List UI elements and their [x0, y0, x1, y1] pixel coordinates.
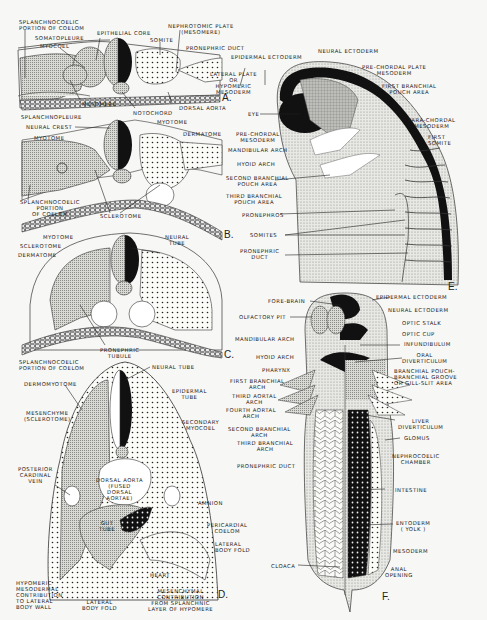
label-f-oral-diverticulum: ORAL DIVERTICULUM: [402, 352, 447, 364]
label-f-fourth-aortal-arch: FOURTH AORTAL ARCH: [226, 407, 276, 419]
label-f-epidermal-ectoderm: EPIDERMAL ECTODERM: [376, 294, 447, 300]
label-f-glomus: GLOMUS: [404, 435, 430, 441]
label-f-entoderm: ENTODERM ( YOLK ): [396, 520, 430, 532]
panel-c-letter: C.: [224, 349, 234, 360]
panel-f-letter: F.: [382, 591, 390, 602]
label-e-second-branchial-pouch: SECOND BRANCHIAL POUCH AREA: [226, 175, 289, 187]
label-e-hyoid-arch: HYOID ARCH: [237, 161, 275, 167]
label-b-myotome-top: MYOTOME: [157, 119, 188, 125]
label-f-pronephric-duct: PRONEPHRIC DUCT: [237, 463, 296, 469]
label-d-posterior-cardinal-vein: POSTERIOR CARDINAL VEIN: [18, 466, 53, 484]
label-a-mesomere: MESOMERE: [82, 101, 116, 107]
label-b-neural-crest: NEURAL CREST: [26, 124, 72, 130]
label-d-dorsal-aorta: DORSAL AORTA (FUSED DORSAL AORTAE): [96, 477, 143, 501]
label-f-pharynx: PHARYNX: [262, 367, 290, 373]
label-d-hypomeric: HYPOMERIC MESODERMAL CONTRIBUTION TO LAT…: [16, 580, 63, 610]
panel-b-letter: B.: [224, 229, 233, 240]
label-f-infundibulum: INFUNDIBULUM: [404, 341, 451, 347]
label-f-hyoid-arch: HYOID ARCH: [256, 354, 294, 360]
label-d-lateral-body-fold-bottom: LATERAL BODY FOLD: [82, 599, 117, 611]
label-f-anal-opening: ANAL OPENING: [385, 566, 413, 578]
label-c-pronephric-tubule: PRONEPHRIC TUBULE: [100, 347, 139, 359]
panel-d-letter: D.: [218, 589, 228, 600]
label-c-dermatome: DERMATOME: [18, 252, 57, 258]
label-e-parachordal: PARA-CHORDAL MESODERM: [408, 117, 455, 129]
label-d-mesenchyme: MESENCHYME (SCLEROTOME): [24, 410, 71, 422]
label-c-splanchnocoelic: SPLANCHNOCOELIC PORTION OF COELOM: [19, 359, 84, 371]
label-d-mesenchymal-contribution: MESENCHYMAL CONTRIBUTION FROM SPLANCHNIC…: [148, 588, 213, 612]
label-e-pronephric-duct: PRONEPHRIC DUCT: [240, 248, 279, 260]
label-c-sclerotome: SCLEROTOME: [20, 243, 62, 249]
label-e-mandibular-arch: MANDIBULAR ARCH: [228, 147, 288, 153]
label-a-nephrotomic-plate: NEPHROTOMIC PLATE (MESOMERE): [168, 23, 234, 35]
label-f-mandibular-arch: MANDIBULAR ARCH: [235, 336, 295, 342]
label-b-splanchnocoelic: SPLANCHNOCOELIC PORTION OF COELOM: [20, 199, 80, 217]
label-a-myocoel: MYOCOEL: [40, 43, 69, 49]
label-a-lateral-plate: LATERAL PLATE OR HYPOMERIC MESODERM: [210, 71, 257, 95]
label-b-myotome-left: MYOTOME: [34, 135, 65, 141]
label-d-heart: HEART: [150, 572, 170, 578]
label-e-third-branchial-pouch: THIRD BRANCHIAL POUCH AREA: [226, 193, 282, 205]
label-a-splanchnocoelic: SPLANCHNOCOELIC PORTION OF COELOM: [19, 19, 84, 31]
label-f-intestine: INTESTINE: [395, 487, 427, 493]
label-a-somite: SOMITE: [150, 37, 173, 43]
label-f-mesoderm: MESODERM: [393, 548, 428, 554]
label-e-pronephros: PRONEPHROS: [242, 212, 284, 218]
label-e-prechordal-mesoderm: PRE-CHORDAL MESODERM: [236, 131, 280, 143]
label-f-branchial-pouch: BRANCHIAL POUCH- BRANCHIAL GROOVE OR GIL…: [394, 368, 457, 386]
label-c-neural-tube: NEURAL TUBE: [165, 234, 189, 246]
label-d-dermomyotome: DERMOMYOTOME: [24, 381, 77, 387]
label-e-neural-ectoderm: NEURAL ECTODERM: [318, 48, 379, 54]
label-f-third-branchial-arch: THIRD BRANCHIAL ARCH: [237, 440, 293, 452]
label-e-somites: SOMITES: [250, 232, 277, 238]
panel-e-section: E.: [277, 62, 458, 292]
label-f-olfactory-pit: OLFACTORY PIT: [239, 314, 286, 320]
label-e-first-somite: FIRST SOMITE: [428, 134, 451, 146]
label-b-sclerotome: SCLEROTOME: [100, 213, 142, 219]
label-e-epidermal-ectoderm: EPIDERMAL ECTODERM: [231, 54, 302, 60]
label-f-neural-ectoderm: NEURAL ECTODERM: [388, 307, 449, 313]
label-f-liver-diverticulum: LIVER DIVERTICULUM: [398, 418, 443, 430]
label-b-dermatome: DERMATOME: [183, 131, 222, 137]
label-f-first-branchial-arch: FIRST BRANCHIAL ARCH: [230, 378, 285, 390]
label-f-optic-cup: OPTIC CUP: [402, 331, 435, 337]
label-e-first-branchial-pouch: FIRST BRANCHIAL POUCH AREA: [382, 83, 437, 95]
label-f-optic-stalk: OPTIC STALK: [402, 320, 441, 326]
label-d-amnion: AMNION: [198, 500, 223, 506]
label-c-myotome: MYOTOME: [43, 234, 74, 240]
label-d-secondary-myocoel: SECONDARY MYOCOEL: [182, 419, 219, 431]
label-e-eye: EYE: [248, 111, 259, 117]
label-f-nephrocoelic-chamber: NEPHROCOELIC CHAMBER: [392, 453, 440, 465]
label-f-second-branchial-arch: SECOND BRANCHIAL ARCH: [228, 426, 291, 438]
label-a-dorsal-aorta: DORSAL AORTA: [179, 105, 226, 111]
label-d-lateral-body-fold-right: LATERAL BODY FOLD: [215, 541, 250, 553]
label-d-pericardial-coelom: PERICARDIAL COELOM: [207, 522, 248, 534]
label-a-epithelial-core: EPITHELIAL CORE: [97, 30, 151, 36]
label-e-prechordal-plate: PRE-CHORDAL PLATE MESODERM: [362, 64, 426, 76]
label-d-epidermal-tube: EPIDERMAL TUBE: [172, 388, 207, 400]
label-d-gut-tube: GUT TUBE: [99, 520, 115, 532]
label-a-somatopleure: SOMATOPLEURE: [35, 35, 84, 41]
label-f-fore-brain: FORE-BRAIN: [268, 298, 305, 304]
label-d-neural-tube: NEURAL TUBE: [152, 364, 195, 370]
label-f-cloaca: CLOACA: [271, 563, 295, 569]
label-a-splanchnopleure: SPLANCHNOPLEURE: [21, 114, 82, 120]
label-a-pronephric-duct: PRONEPHRIC DUCT: [186, 45, 245, 51]
panel-e-letter: E.: [448, 281, 457, 292]
label-a-notochord: NOTOCHORD: [133, 110, 173, 116]
label-f-third-aortal-arch: THIRD AORTAL ARCH: [232, 393, 277, 405]
